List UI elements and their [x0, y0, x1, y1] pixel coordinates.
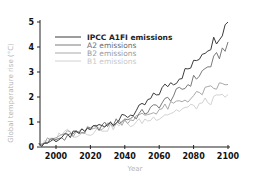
y-axis: 012345 [28, 18, 40, 152]
temperature-chart: 012345 200020202040206020802100 Global t… [0, 0, 258, 180]
x-axis-title: Year [127, 165, 143, 173]
x-tick-label: 2100 [217, 152, 240, 161]
legend-item-b1: B1 emissions [55, 57, 137, 66]
y-tick-label: 5 [28, 18, 34, 27]
y-tick-label: 1 [28, 118, 34, 127]
y-axis-title: Global temperature rise (°C) [7, 43, 15, 143]
x-axis: 200020202040206020802100 [40, 145, 240, 161]
x-tick-label: 2020 [79, 152, 102, 161]
x-tick-label: 2080 [182, 152, 205, 161]
y-tick-label: 3 [28, 68, 34, 77]
x-tick-label: 2040 [114, 152, 137, 161]
legend-label-b1: B1 emissions [87, 57, 137, 66]
y-tick-label: 2 [28, 93, 34, 102]
y-tick-label: 0 [28, 143, 34, 152]
series-line-b2 [39, 83, 228, 147]
y-tick-label: 4 [28, 43, 34, 52]
x-tick-label: 2060 [148, 152, 171, 161]
legend: IPCC A1FI emissions A2 emissions B2 emis… [55, 33, 173, 66]
x-tick-label: 2000 [45, 152, 68, 161]
